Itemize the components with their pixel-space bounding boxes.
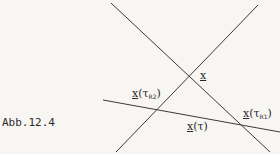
x-var: x [200, 69, 206, 82]
label-x-intersection: x [200, 69, 206, 82]
subscript: R2 [149, 93, 157, 100]
close-paren: ) [268, 107, 272, 120]
label-x-tau-r1: x(τR1) [243, 107, 272, 120]
subscript: R1 [260, 113, 268, 120]
figure-caption: Abb.12.4 [2, 116, 55, 129]
label-x-tau: x(τ) [187, 120, 208, 133]
close-paren: ) [204, 120, 208, 133]
diagram-canvas [0, 0, 280, 154]
close-paren: ) [157, 87, 161, 100]
label-x-tau-r2: x(τR2) [132, 87, 161, 100]
